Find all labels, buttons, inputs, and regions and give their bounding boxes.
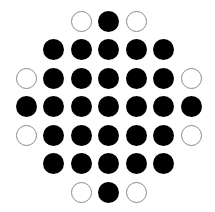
filled-circle bbox=[153, 153, 174, 174]
empty-circle bbox=[181, 68, 202, 89]
filled-circle bbox=[153, 125, 174, 146]
peg-board bbox=[0, 0, 215, 212]
filled-circle bbox=[71, 39, 92, 60]
empty-circle bbox=[16, 125, 37, 146]
filled-circle bbox=[126, 153, 147, 174]
empty-circle bbox=[181, 125, 202, 146]
filled-circle bbox=[43, 153, 64, 174]
empty-circle bbox=[126, 182, 147, 203]
filled-circle bbox=[126, 68, 147, 89]
filled-circle bbox=[71, 68, 92, 89]
filled-circle bbox=[71, 125, 92, 146]
filled-circle bbox=[71, 153, 92, 174]
filled-circle bbox=[98, 125, 119, 146]
empty-circle bbox=[71, 11, 92, 32]
filled-circle bbox=[71, 96, 92, 117]
filled-circle bbox=[98, 11, 119, 32]
filled-circle bbox=[98, 182, 119, 203]
empty-circle bbox=[126, 11, 147, 32]
filled-circle bbox=[126, 125, 147, 146]
filled-circle bbox=[153, 96, 174, 117]
filled-circle bbox=[98, 68, 119, 89]
filled-circle bbox=[16, 96, 37, 117]
filled-circle bbox=[43, 39, 64, 60]
empty-circle bbox=[71, 182, 92, 203]
filled-circle bbox=[43, 125, 64, 146]
filled-circle bbox=[126, 39, 147, 60]
filled-circle bbox=[98, 96, 119, 117]
filled-circle bbox=[43, 68, 64, 89]
empty-circle bbox=[16, 68, 37, 89]
filled-circle bbox=[153, 39, 174, 60]
filled-circle bbox=[126, 96, 147, 117]
filled-circle bbox=[98, 39, 119, 60]
filled-circle bbox=[43, 96, 64, 117]
filled-circle bbox=[98, 153, 119, 174]
filled-circle bbox=[181, 96, 202, 117]
filled-circle bbox=[153, 68, 174, 89]
